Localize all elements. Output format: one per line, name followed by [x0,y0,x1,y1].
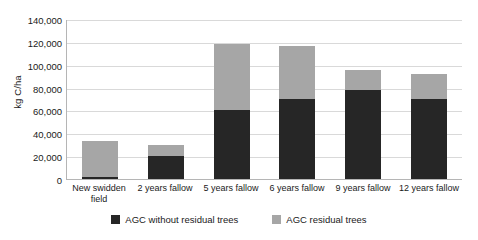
bar-segment-residual-trees[interactable] [148,145,184,156]
bar-stack[interactable] [82,141,118,179]
bar-slot [67,20,133,179]
bar-segment-residual-trees[interactable] [279,46,315,99]
x-axis-tick-label: 12 years fallow [396,183,462,205]
bar-segment-without-residual-trees[interactable] [411,99,447,179]
bar-slot [133,20,199,179]
y-axis-tick-label: 40,000 [20,129,62,140]
y-axis-tick-labels: 020,00040,00060,00080,000100,000120,0001… [20,20,62,180]
bar-slot [396,20,462,179]
y-axis-tick-label: 60,000 [20,106,62,117]
bar-segment-without-residual-trees[interactable] [148,156,184,179]
bar-slot [330,20,396,179]
x-axis-tick-label: 6 years fallow [264,183,330,205]
x-axis-tick-label: 2 years fallow [132,183,198,205]
y-axis-tick-label: 140,000 [20,15,62,26]
bar-stack[interactable] [345,70,381,179]
y-axis-tick-label: 0 [20,175,62,186]
bar-stack[interactable] [214,44,250,179]
y-axis-tick-label: 80,000 [20,83,62,94]
bars-layer [67,20,462,179]
x-axis-tick-label: New swidden field [66,183,132,205]
legend-item[interactable]: AGC without residual trees [111,214,238,225]
bar-segment-without-residual-trees[interactable] [82,177,118,179]
bar-segment-residual-trees[interactable] [82,141,118,176]
bar-segment-residual-trees[interactable] [411,74,447,99]
x-axis-tick-label: 5 years fallow [198,183,264,205]
bar-slot [264,20,330,179]
legend-swatch-icon [272,215,281,224]
bar-stack[interactable] [411,74,447,179]
stacked-bar-chart: kg C/ha 020,00040,00060,00080,000100,000… [0,0,478,240]
legend-item[interactable]: AGC residual trees [272,214,366,225]
x-axis-tick-labels: New swidden field2 years fallow5 years f… [66,183,462,205]
bar-segment-without-residual-trees[interactable] [345,90,381,179]
bar-segment-without-residual-trees[interactable] [279,99,315,179]
bar-segment-residual-trees[interactable] [214,44,250,110]
y-axis-tick-label: 20,000 [20,152,62,163]
legend-label: AGC residual trees [286,214,366,225]
legend-swatch-icon [111,215,120,224]
legend-label: AGC without residual trees [125,214,238,225]
y-axis-tick-label: 100,000 [20,60,62,71]
y-axis-tick-label: 120,000 [20,37,62,48]
bar-segment-residual-trees[interactable] [345,70,381,89]
plot-area [66,20,462,180]
bar-stack[interactable] [148,145,184,179]
bar-stack[interactable] [279,46,315,179]
bar-segment-without-residual-trees[interactable] [214,110,250,179]
chart-legend: AGC without residual treesAGC residual t… [0,214,478,225]
x-axis-tick-label: 9 years fallow [330,183,396,205]
bar-slot [199,20,265,179]
